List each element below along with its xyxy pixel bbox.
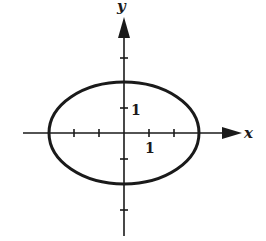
x-axis-arrowhead	[222, 127, 242, 139]
y-axis-arrowhead	[118, 17, 130, 38]
x-tick-label-1: 1	[145, 140, 155, 156]
y-axis-label: y	[116, 0, 127, 15]
y-tick-label-1: 1	[131, 102, 141, 118]
ellipse-diagram: x y 1 1	[0, 0, 266, 241]
x-axis-label: x	[243, 124, 254, 142]
